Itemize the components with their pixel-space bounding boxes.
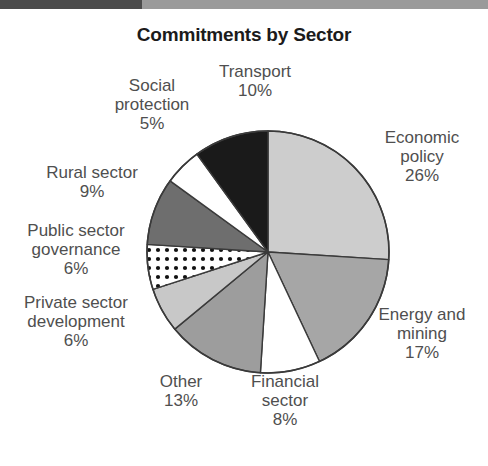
slice-label-transport: Transport 10% [200,62,310,100]
slice-label-public-sector-governance-name2: governance [0,240,152,259]
slice-label-private-sector-development-name2: development [0,312,152,331]
slice-label-private-sector-development-percent: 6% [0,331,152,350]
slice-label-social-protection-name1: Social [90,76,214,95]
slice-label-social-protection-percent: 5% [90,114,214,133]
slice-label-private-sector-development-name1: Private sector [0,293,152,312]
slice-label-rural-sector-name: Rural sector [22,163,162,182]
slice-label-transport-percent: 10% [200,81,310,100]
top-rule-dark-segment [0,0,142,9]
slice-label-social-protection: Social protection 5% [90,76,214,133]
slice-label-financial-sector: Financial sector 8% [228,372,342,429]
slice-label-public-sector-governance-name1: Public sector [0,221,152,240]
slice-label-financial-sector-name2: sector [228,391,342,410]
slice-label-energy-and-mining-name2: mining [362,324,482,343]
slice-label-transport-name: Transport [200,62,310,81]
slice-label-public-sector-governance: Public sector governance 6% [0,221,152,278]
slice-label-rural-sector-percent: 9% [22,182,162,201]
slice-label-other-name: Other [133,372,229,391]
slice-label-private-sector-development: Private sector development 6% [0,293,152,350]
top-rule-light-segment [142,0,488,9]
slice-label-rural-sector: Rural sector 9% [22,163,162,201]
slice-label-economic-policy-name2: policy [360,147,484,166]
slice-label-financial-sector-percent: 8% [228,410,342,429]
slice-label-energy-and-mining-percent: 17% [362,343,482,362]
slice-label-energy-and-mining-name1: Energy and [362,305,482,324]
slice-label-other-percent: 13% [133,391,229,410]
pie-slice-group [147,131,389,373]
pie-chart [146,130,390,374]
slice-label-economic-policy: Economic policy 26% [360,128,484,185]
top-decorative-rule [0,0,488,9]
slice-label-other: Other 13% [133,372,229,410]
slice-label-public-sector-governance-percent: 6% [0,259,152,278]
slice-label-social-protection-name2: protection [90,95,214,114]
slice-label-financial-sector-name1: Financial [228,372,342,391]
slice-label-economic-policy-percent: 26% [360,166,484,185]
pie-chart-svg [146,130,390,374]
slice-label-energy-and-mining: Energy and mining 17% [362,305,482,362]
slice-label-economic-policy-name1: Economic [360,128,484,147]
chart-title: Commitments by Sector [0,24,488,46]
